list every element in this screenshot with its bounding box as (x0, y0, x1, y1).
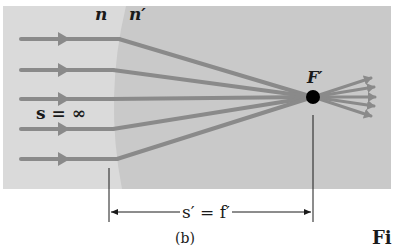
label-focal-point: F′ (307, 68, 323, 87)
label-n: n (95, 4, 107, 24)
label-n-prime: n′ (129, 4, 146, 24)
label-object-distance: s = ∞ (36, 103, 86, 123)
focal-point-dot (306, 90, 320, 104)
caption-fragment: Fi (372, 227, 392, 248)
label-image-distance: s′ = f′ (180, 202, 232, 222)
panel-label: (b) (175, 230, 195, 246)
